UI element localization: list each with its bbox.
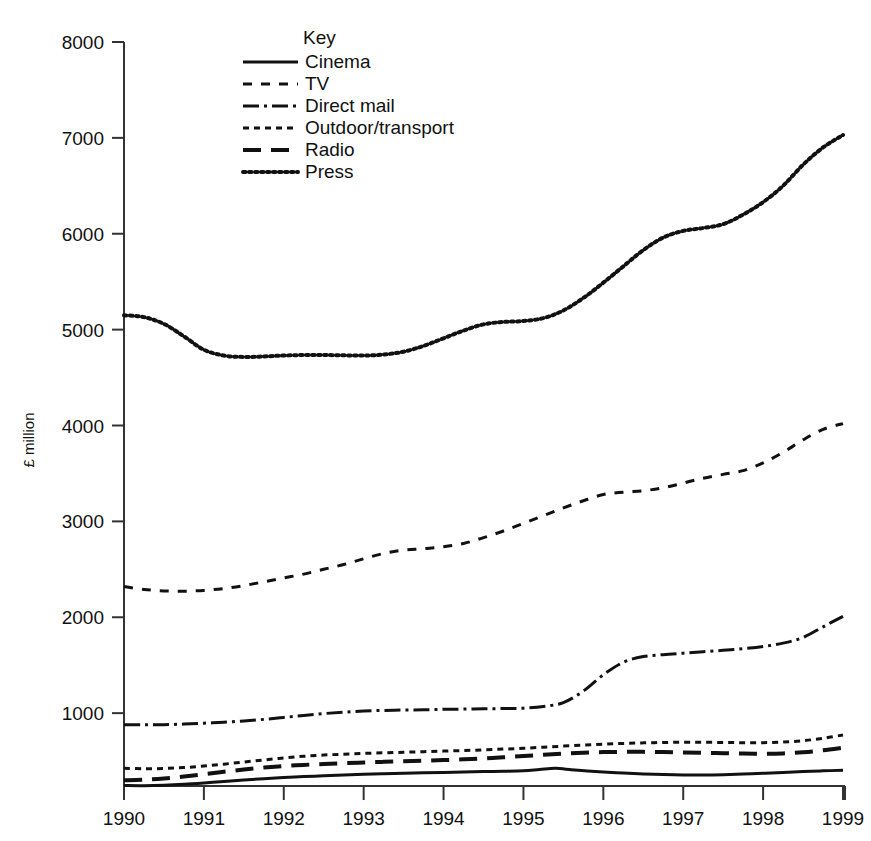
- x-tick-label: 1997: [662, 808, 704, 829]
- legend-item-label: Direct mail: [305, 95, 395, 116]
- x-axis-ticks: 1990199119921993199419951996199719981999: [103, 786, 864, 829]
- y-tick-label: 1000: [62, 703, 104, 724]
- x-tick-label: 1995: [502, 808, 544, 829]
- x-tick-label: 1993: [343, 808, 385, 829]
- chart-page: 10002000300040005000600070008000 1990199…: [0, 0, 871, 841]
- x-tick-label: 1996: [582, 808, 624, 829]
- series-line-direct-mail: [124, 616, 843, 725]
- y-tick-label: 4000: [62, 416, 104, 437]
- x-tick-label: 1994: [422, 808, 465, 829]
- y-tick-label: 6000: [62, 224, 104, 245]
- x-tick-label: 1999: [822, 808, 864, 829]
- legend-item-label: Cinema: [305, 51, 371, 72]
- chart-series-layer: [124, 135, 843, 786]
- chart-legend: Key CinemaTVDirect mailOutdoor/transport…: [243, 27, 455, 182]
- x-tick-label: 1998: [742, 808, 784, 829]
- y-tick-label: 2000: [62, 607, 104, 628]
- series-line-outdoor-transport: [124, 735, 843, 769]
- legend-title: Key: [303, 27, 336, 48]
- series-line-press: [124, 135, 843, 357]
- y-axis-ticks: 10002000300040005000600070008000: [62, 32, 124, 724]
- legend-item-label: Press: [305, 161, 354, 182]
- series-line-tv: [124, 424, 843, 592]
- x-tick-label: 1990: [103, 808, 145, 829]
- legend-item-label: Outdoor/transport: [305, 117, 455, 138]
- legend-item-label: TV: [305, 73, 330, 94]
- x-tick-label: 1992: [263, 808, 305, 829]
- y-tick-label: 7000: [62, 128, 104, 149]
- y-axis-title: £ million: [20, 412, 37, 467]
- y-tick-label: 8000: [62, 32, 104, 53]
- y-tick-label: 5000: [62, 320, 104, 341]
- chart-axes: [124, 42, 845, 786]
- series-line-cinema: [124, 768, 843, 785]
- x-tick-label: 1991: [183, 808, 225, 829]
- advertising-expenditure-line-chart: 10002000300040005000600070008000 1990199…: [0, 0, 871, 841]
- legend-item-label: Radio: [305, 139, 355, 160]
- y-tick-label: 3000: [62, 511, 104, 532]
